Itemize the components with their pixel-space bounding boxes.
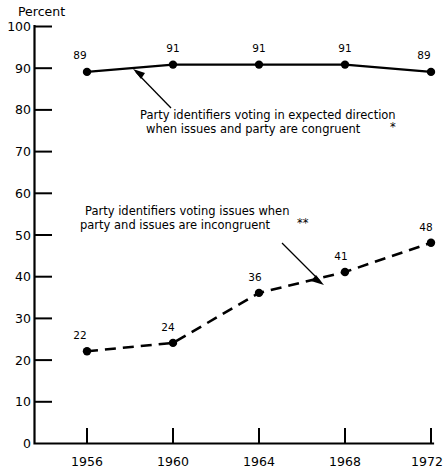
series-incongruent-label-1960: 24	[161, 321, 175, 333]
x-tick-label-1960: 1960	[157, 454, 189, 469]
series-incongruent-point-1968	[341, 268, 349, 276]
x-axis-tick-labels: 1956 1960 1964 1968 1972	[71, 454, 443, 469]
annotation-incongruent-footnote-marker: **	[297, 216, 309, 230]
x-tick-label-1956: 1956	[71, 454, 103, 469]
series-incongruent-label-1972: 48	[419, 221, 432, 233]
y-tick-label-100: 100	[7, 19, 31, 34]
chart-figure: Percent 100 90 80 70	[0, 0, 443, 473]
x-tick-label-1964: 1964	[243, 454, 275, 469]
annotation-incongruent-line2: party and issues are incongruent	[80, 218, 271, 232]
annotation-congruent: Party identifiers voting in expected dir…	[133, 69, 396, 136]
chart-canvas: Percent 100 90 80 70	[0, 0, 443, 473]
y-tick-label-80: 80	[15, 102, 31, 117]
annotation-congruent-line1: Party identifiers voting in expected dir…	[140, 108, 396, 122]
y-axis-ticks	[34, 27, 52, 402]
series-incongruent-label-1964: 36	[248, 271, 262, 283]
series-congruent: 89 91 91 91 89	[73, 42, 435, 77]
series-incongruent: 22 24 36 41 48	[73, 221, 435, 356]
series-congruent-point-1968	[341, 60, 349, 68]
series-incongruent-label-1968: 41	[334, 250, 347, 262]
series-congruent-label-1960: 91	[166, 42, 179, 54]
series-congruent-label-1956: 89	[73, 49, 86, 61]
series-congruent-point-1972	[427, 68, 435, 76]
series-congruent-point-1956	[83, 68, 91, 76]
y-tick-label-20: 20	[15, 353, 31, 368]
y-axis-title: Percent	[18, 4, 65, 19]
annotation-congruent-footnote-marker: *	[390, 120, 396, 134]
y-tick-label-90: 90	[15, 61, 31, 76]
series-congruent-label-1972: 89	[417, 49, 430, 61]
y-tick-label-70: 70	[15, 144, 31, 159]
series-incongruent-point-1972	[427, 239, 435, 247]
x-tick-label-1972: 1972	[411, 454, 443, 469]
annotation-incongruent-arrow-line	[282, 243, 320, 281]
series-congruent-label-1964: 91	[252, 42, 265, 54]
series-incongruent-point-1960	[169, 339, 177, 347]
annotation-congruent-arrow-head	[133, 69, 145, 79]
axis-lines	[35, 26, 434, 444]
y-tick-label-40: 40	[15, 269, 31, 284]
y-tick-label-50: 50	[15, 228, 31, 243]
x-tick-label-1968: 1968	[329, 454, 361, 469]
series-congruent-point-1960	[169, 60, 177, 68]
y-tick-label-10: 10	[15, 394, 31, 409]
x-axis-ticks	[87, 428, 431, 443]
series-incongruent-label-1956: 22	[73, 329, 86, 341]
series-congruent-point-1964	[255, 60, 263, 68]
y-tick-label-60: 60	[15, 186, 31, 201]
series-congruent-label-1968: 91	[338, 42, 351, 54]
y-tick-label-30: 30	[15, 311, 31, 326]
series-incongruent-point-1964	[255, 289, 263, 297]
axes-group: 100 90 80 70 60 50 40 30 20 10 0	[7, 19, 443, 469]
annotation-congruent-line2: when issues and party are congruent	[146, 122, 361, 136]
y-axis-tick-labels: 100 90 80 70 60 50 40 30 20 10 0	[7, 19, 31, 451]
annotation-incongruent: Party identifiers voting issues when par…	[80, 204, 324, 285]
annotation-incongruent-line1: Party identifiers voting issues when	[85, 204, 289, 218]
y-tick-label-0: 0	[23, 436, 31, 451]
series-incongruent-point-1956	[83, 347, 91, 355]
annotation-incongruent-arrow-head	[311, 275, 324, 285]
